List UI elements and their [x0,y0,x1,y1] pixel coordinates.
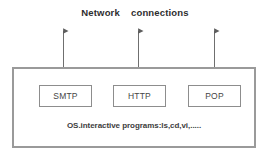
protocol-box-smtp: SMTP [39,85,92,107]
protocol-box-smtp-label: SMTP [53,92,77,101]
protocol-box-pop-label: POP [205,92,224,101]
protocol-box-pop: POP [188,85,241,107]
os-container-inner-border [16,71,252,144]
network-connections-diagram: Network connections SMTP HTTP POP [0,0,270,157]
os-caption-text: OS.interactive programs:ls,cd,vi,..... [12,121,256,130]
diagram-title: Network connections [0,7,270,18]
protocol-box-http-label: HTTP [128,92,151,101]
protocol-box-http: HTTP [113,85,166,107]
os-container-box [12,67,256,148]
